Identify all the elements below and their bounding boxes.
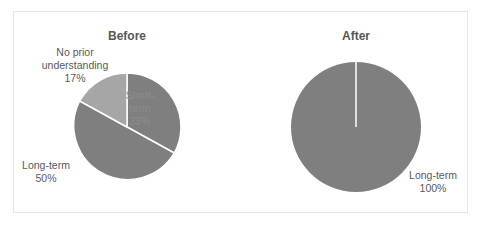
label-text: understanding xyxy=(30,59,120,72)
label-no-prior: No prior understanding 17% xyxy=(30,46,120,85)
label-value: 50% xyxy=(16,172,76,185)
label-short-term: Short- term 33% xyxy=(122,89,158,128)
label-text: No prior xyxy=(30,46,120,59)
label-value: 17% xyxy=(30,72,120,85)
after-title: After xyxy=(296,29,416,43)
before-title: Before xyxy=(67,29,187,43)
label-text: term xyxy=(122,102,158,115)
label-text: Long-term xyxy=(403,169,463,182)
label-long-term-after: Long-term 100% xyxy=(403,169,463,195)
label-text: Short- xyxy=(122,89,158,102)
label-value: 100% xyxy=(403,182,463,195)
label-long-term: Long-term 50% xyxy=(16,159,76,185)
after-pie xyxy=(291,62,421,192)
label-text: Long-term xyxy=(16,159,76,172)
label-value: 33% xyxy=(122,115,158,128)
